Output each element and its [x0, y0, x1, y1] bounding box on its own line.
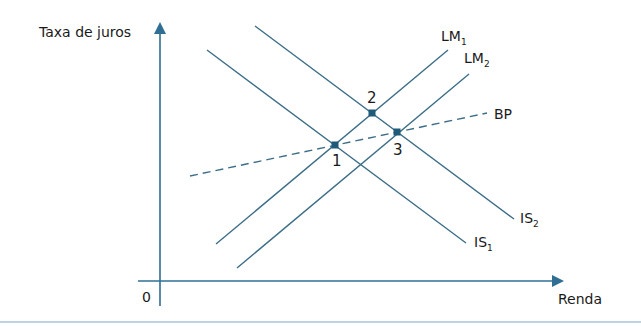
- axes: [138, 22, 564, 306]
- equilibrium-points: [332, 110, 401, 149]
- lm1-label: LM1: [441, 28, 467, 47]
- lm2-label: LM2: [464, 50, 490, 69]
- is1-label: IS1: [474, 234, 493, 253]
- y-axis-label: Taxa de juros: [38, 24, 131, 40]
- lm2-curve: [237, 74, 469, 268]
- point-2-label: 2: [367, 89, 377, 107]
- x-axis-arrow-icon: [552, 275, 564, 287]
- point-1-label: 1: [332, 152, 342, 170]
- bp-label: BP: [494, 106, 512, 122]
- y-axis-arrow-icon: [154, 22, 166, 34]
- point-2-marker: [369, 110, 376, 117]
- x-axis-label: Renda: [558, 291, 602, 307]
- is-lm-bp-diagram: Taxa de juros Renda 0 LM1 LM2 IS1 IS2 BP…: [0, 0, 641, 326]
- point-1-marker: [332, 142, 339, 149]
- point-3-marker: [394, 129, 401, 136]
- origin-label: 0: [142, 289, 151, 305]
- point-3-label: 3: [393, 141, 403, 159]
- is2-label: IS2: [520, 210, 539, 229]
